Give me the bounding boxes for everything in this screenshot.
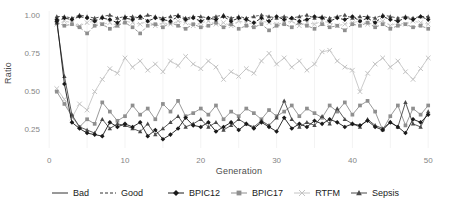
line-chart-figure: 0.250.500.751.0001020304050 Ratio Genera… [0,0,450,219]
y-tick-label: 0.25 [24,125,40,134]
legend-label: Good [121,188,143,198]
plot-area: 0.250.500.751.0001020304050 [0,0,450,178]
legend-sepsis-key-icon [350,188,368,198]
x-tick-label: 10 [121,156,130,165]
legend-item-sepsis: Sepsis [350,188,399,198]
legend-label: Sepsis [372,188,399,198]
legend-item-bpic12: BPIC12 [167,188,220,198]
x-tick-labels: 01020304050 [47,156,433,165]
legend-label: RTFM [315,188,340,198]
x-tick-label: 50 [424,156,433,165]
x-tick-label: 30 [272,156,281,165]
series-bad-bpic12 [54,17,430,141]
x-tick-label: 40 [348,156,357,165]
y-tick-label: 1.00 [24,11,40,20]
legend-item-bad: Bad [51,188,89,198]
y-axis-title: Ratio [3,23,13,123]
legend-bpic12-key-icon [167,188,185,198]
legend-item-rtfm: RTFM [293,188,340,198]
legend-label: Bad [73,188,89,198]
y-tick-label: 0.50 [24,87,40,96]
series-bad-sepsis [55,20,431,136]
x-tick-label: 20 [196,156,205,165]
legend-bpic17-key-icon [230,188,248,198]
legend-rtfm-key-icon [293,188,311,198]
x-tick-label: 0 [47,156,52,165]
legend-item-good: Good [99,188,143,198]
legend-bad-key-icon [51,188,69,198]
legend-label: BPIC12 [189,188,220,198]
y-tick-label: 0.75 [24,49,40,58]
y-tick-labels: 0.250.500.751.00 [24,11,40,135]
legend-item-bpic17: BPIC17 [230,188,283,198]
chart-legend: BadGoodBPIC12BPIC17RTFMSepsis [0,188,450,198]
legend-label: BPIC17 [252,188,283,198]
x-axis-title: Generation [49,166,429,176]
series-bad-rtfm [54,48,430,120]
legend-good-key-icon [99,188,117,198]
gridlines [49,11,428,148]
